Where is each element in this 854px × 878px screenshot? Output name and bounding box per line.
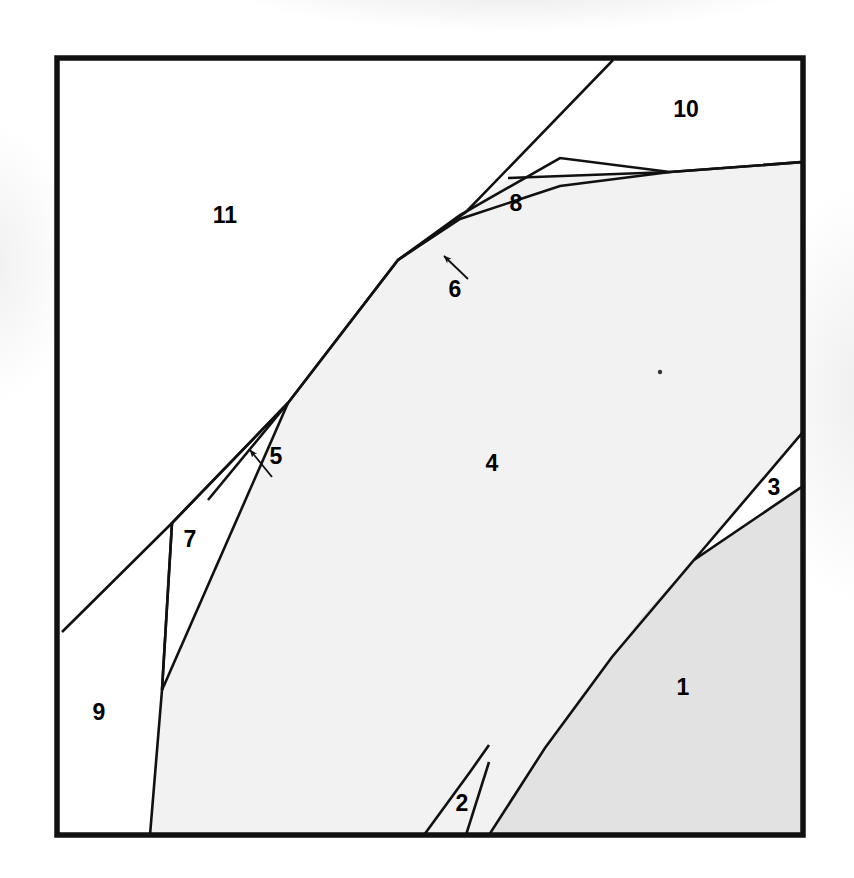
region-label-9: 9 — [93, 699, 106, 725]
region-label-8: 8 — [510, 190, 523, 216]
region-label-3: 3 — [768, 474, 781, 500]
region-diagram: 1 2 3 4 5 6 7 8 9 10 11 — [0, 0, 854, 878]
region-label-6: 6 — [449, 276, 462, 302]
region-label-5: 5 — [270, 443, 283, 469]
region-label-11: 11 — [213, 202, 238, 228]
stray-dot-marker — [658, 370, 662, 374]
figure-page: 1 2 3 4 5 6 7 8 9 10 11 — [0, 0, 854, 878]
region-label-4: 4 — [486, 450, 499, 476]
region-label-2: 2 — [456, 790, 469, 816]
region-label-7: 7 — [184, 526, 197, 552]
region-label-10: 10 — [673, 96, 699, 122]
region-label-1: 1 — [677, 674, 690, 700]
